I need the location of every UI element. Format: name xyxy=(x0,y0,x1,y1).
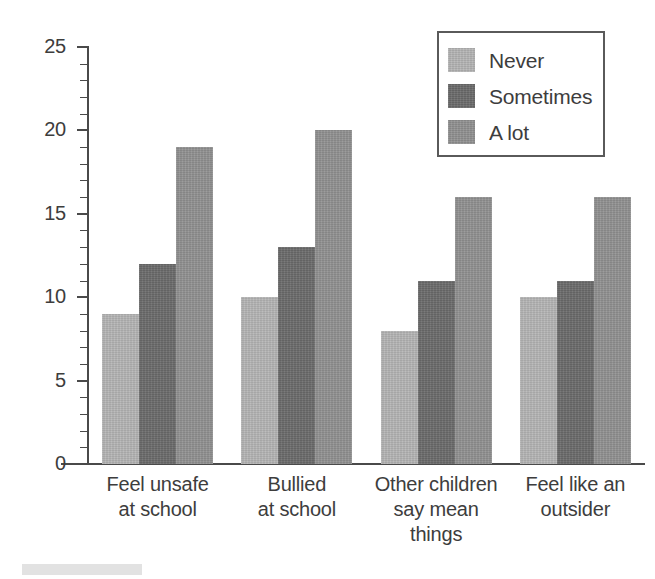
category-label-line: outsider xyxy=(500,497,650,522)
y-axis-tick-label: 20 xyxy=(24,119,66,139)
y-axis-minor-tick xyxy=(80,247,88,248)
y-axis-major-tick xyxy=(77,296,88,298)
bar[interactable] xyxy=(315,130,352,464)
bar[interactable] xyxy=(176,147,213,464)
y-axis-minor-tick xyxy=(80,64,88,65)
legend-label: A lot xyxy=(489,122,529,143)
category-label: Feel like anoutsider xyxy=(500,472,650,522)
category-label-line: Feel like an xyxy=(500,472,650,497)
category-label-line: at school xyxy=(83,497,233,522)
y-axis-minor-tick xyxy=(80,364,88,365)
y-axis-minor-tick xyxy=(80,314,88,315)
category-label: Other childrensay meanthings xyxy=(361,472,511,547)
y-axis-major-tick xyxy=(77,46,88,48)
y-axis-minor-tick xyxy=(80,281,88,282)
y-axis-minor-tick xyxy=(80,331,88,332)
y-axis-tick-label: 25 xyxy=(24,36,66,56)
bar[interactable] xyxy=(455,197,492,464)
y-axis-major-tick xyxy=(77,463,88,465)
bar[interactable] xyxy=(594,197,631,464)
y-axis-minor-tick xyxy=(80,431,88,432)
scan-edge-artifact xyxy=(22,564,142,575)
legend-item-never[interactable]: Never xyxy=(448,42,603,78)
y-axis-minor-tick xyxy=(80,197,88,198)
y-axis-minor-tick xyxy=(80,347,88,348)
category-label: Feel unsafeat school xyxy=(83,472,233,522)
y-axis-major-tick xyxy=(77,380,88,382)
y-axis-major-tick xyxy=(77,213,88,215)
legend-label: Never xyxy=(489,50,544,71)
y-axis-tick-label: 0 xyxy=(24,453,66,473)
y-axis-minor-tick xyxy=(80,397,88,398)
bar[interactable] xyxy=(381,331,418,464)
category-label-line: at school xyxy=(222,497,372,522)
category-label-line: Other children xyxy=(361,472,511,497)
y-axis-minor-tick xyxy=(80,180,88,181)
y-axis-minor-tick xyxy=(80,114,88,115)
y-axis-tick-label: 15 xyxy=(24,203,66,223)
legend-swatch-alot xyxy=(448,120,475,144)
legend-item-sometimes[interactable]: Sometimes xyxy=(448,78,603,114)
y-axis-minor-tick xyxy=(80,147,88,148)
legend-item-alot[interactable]: A lot xyxy=(448,114,603,150)
bar[interactable] xyxy=(418,281,455,464)
category-label: Bulliedat school xyxy=(222,472,372,522)
category-label-line: say mean xyxy=(361,497,511,522)
y-axis-minor-tick xyxy=(80,97,88,98)
legend-label: Sometimes xyxy=(489,86,592,107)
y-axis-minor-tick xyxy=(80,164,88,165)
legend-swatch-sometimes xyxy=(448,84,475,108)
legend-swatch-never xyxy=(448,48,475,72)
y-axis-minor-tick xyxy=(80,230,88,231)
y-axis-minor-tick xyxy=(80,80,88,81)
y-axis-minor-tick xyxy=(80,264,88,265)
bar[interactable] xyxy=(520,297,557,464)
y-axis-minor-tick xyxy=(80,447,88,448)
y-axis-minor-tick xyxy=(80,414,88,415)
category-label-line: things xyxy=(361,522,511,547)
bar-chart: 0510152025 Feel unsafeat schoolBulliedat… xyxy=(0,0,655,579)
y-axis-tick-label: 10 xyxy=(24,286,66,306)
category-label-line: Bullied xyxy=(222,472,372,497)
bar[interactable] xyxy=(139,264,176,464)
bar[interactable] xyxy=(557,281,594,464)
y-axis-tick-label: 5 xyxy=(24,370,66,390)
bar[interactable] xyxy=(241,297,278,464)
legend: NeverSometimesA lot xyxy=(437,31,605,157)
bar[interactable] xyxy=(278,247,315,464)
category-label-line: Feel unsafe xyxy=(83,472,233,497)
bar[interactable] xyxy=(102,314,139,464)
y-axis-major-tick xyxy=(77,129,88,131)
